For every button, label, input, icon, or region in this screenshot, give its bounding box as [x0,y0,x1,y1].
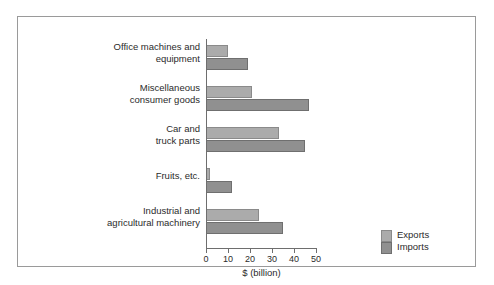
x-tick-50 [316,249,317,253]
legend-swatch-exports [381,230,392,242]
x-tick-10 [228,249,229,253]
x-axis-line [206,248,317,249]
category-label-line: Car and [35,123,200,135]
x-tick-label-50: 50 [304,254,328,264]
bar-imports-1 [206,99,309,111]
category-label-group: Office machines andequipmentMiscellaneou… [32,39,200,247]
x-tick-40 [294,249,295,253]
category-label-line: consumer goods [35,94,200,106]
x-tick-label-0: 0 [194,254,218,264]
bar-exports-4 [206,209,259,221]
bar-imports-0 [206,58,248,70]
category-label-line: equipment [35,53,200,65]
category-label-line: agricultural machinery [35,217,200,229]
category-label-line: Industrial and [35,205,200,217]
category-label-0: Office machines andequipment [35,41,200,65]
category-label-2: Car andtruck parts [35,123,200,147]
x-tick-label-20: 20 [238,254,262,264]
bar-imports-3 [206,181,232,193]
x-tick-label-10: 10 [216,254,240,264]
x-tick-label-30: 30 [260,254,284,264]
bar-exports-0 [206,45,228,57]
bar-imports-2 [206,140,305,152]
category-label-line: Fruits, etc. [35,170,200,182]
chart-frame: Office machines andequipmentMiscellaneou… [17,16,476,267]
x-tick-label-40: 40 [282,254,306,264]
bar-exports-1 [206,86,252,98]
plot-area [206,39,316,247]
legend-label-imports: Imports [397,241,429,252]
x-tick-30 [272,249,273,253]
x-tick-0 [206,249,207,253]
x-axis-title: $ (billion) [206,267,317,278]
x-tick-20 [250,249,251,253]
legend-swatch-imports [381,242,392,254]
bar-exports-2 [206,127,279,139]
category-label-1: Miscellaneousconsumer goods [35,82,200,106]
category-label-3: Fruits, etc. [35,170,200,182]
bar-imports-4 [206,222,283,234]
y-axis-line [206,39,207,249]
category-label-line: Office machines and [35,41,200,53]
chart-figure: Office machines andequipmentMiscellaneou… [0,0,494,285]
category-label-4: Industrial andagricultural machinery [35,205,200,229]
category-label-line: Miscellaneous [35,82,200,94]
legend-label-exports: Exports [397,229,429,240]
category-label-line: truck parts [35,135,200,147]
